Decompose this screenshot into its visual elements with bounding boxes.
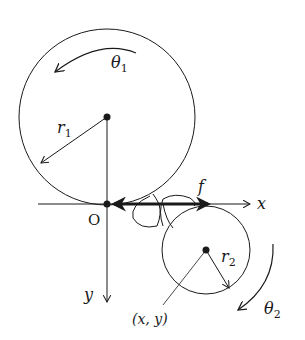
y-axis-label: y <box>83 285 94 304</box>
radius-1-label: r1 <box>57 118 72 140</box>
center-coordinate-label: (x, y) <box>132 311 168 327</box>
angle-2-label: θ2 <box>264 299 281 321</box>
origin-dot <box>104 201 111 208</box>
origin-label: O <box>88 211 100 229</box>
radius-1-arrow <box>41 117 107 163</box>
center-leader-line <box>163 250 206 305</box>
radius-2-label: r2 <box>221 247 236 269</box>
x-axis-label: x <box>257 194 266 213</box>
force-label: f <box>197 177 207 196</box>
diagram-canvas: O x y r1 θ1 r2 θ2 (x, y) f <box>0 0 305 340</box>
angle-1-label: θ1 <box>111 53 128 75</box>
